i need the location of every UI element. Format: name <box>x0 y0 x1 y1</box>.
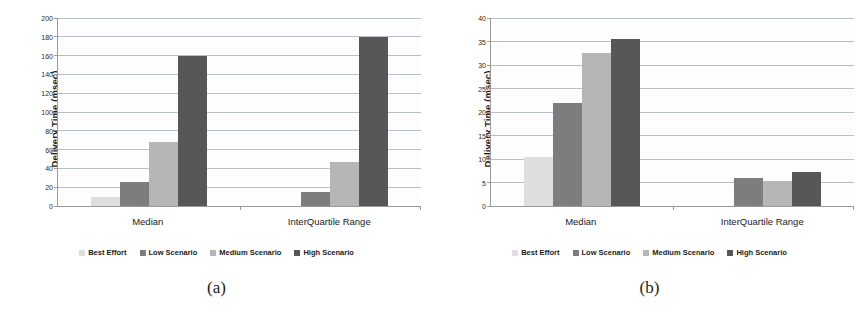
y-tick-mark <box>487 182 491 183</box>
y-tick-mark <box>487 206 491 207</box>
bar <box>763 181 792 206</box>
legend-swatch-icon <box>140 250 146 256</box>
bar <box>734 178 763 206</box>
bar <box>524 157 553 206</box>
y-tick-mark <box>54 168 58 169</box>
bar <box>301 192 330 206</box>
legend-label: Best Effort <box>88 248 126 257</box>
y-axis-ticks-a: 020406080100120140160180200 <box>29 0 53 206</box>
legend-label: High Scenario <box>736 248 786 257</box>
x-group-label: Median <box>57 216 239 227</box>
bar <box>792 172 821 206</box>
y-tick-label: 40 <box>478 15 486 22</box>
figure-row: Delivery Time (msec) 0204060801001201401… <box>0 0 867 324</box>
y-tick-mark <box>54 55 58 56</box>
legend-item: Low Scenario <box>140 248 198 257</box>
bar <box>553 103 582 206</box>
y-tick-mark <box>54 18 58 19</box>
x-tick-mark <box>673 206 674 210</box>
bar <box>359 37 388 206</box>
chart-b: Delivery Time (msec) 0510152025303540 Me… <box>433 0 866 238</box>
gridline <box>491 65 854 66</box>
legend-swatch-icon <box>573 250 579 256</box>
y-tick-mark <box>487 41 491 42</box>
legend-b: Best EffortLow ScenarioMedium ScenarioHi… <box>433 248 866 257</box>
y-tick-label: 35 <box>478 38 486 45</box>
y-tick-label: 180 <box>41 33 53 40</box>
legend-item: Best Effort <box>79 248 126 257</box>
y-tick-mark <box>54 112 58 113</box>
legend-item: High Scenario <box>727 248 786 257</box>
y-tick-label: 80 <box>45 127 53 134</box>
bar <box>582 53 611 206</box>
bar <box>178 56 207 206</box>
legend-item: Medium Scenario <box>210 248 281 257</box>
y-tick-label: 120 <box>41 90 53 97</box>
plot-area-b <box>490 18 854 207</box>
y-tick-mark <box>487 18 491 19</box>
legend-a: Best EffortLow ScenarioMedium ScenarioHi… <box>0 248 433 257</box>
legend-swatch-icon <box>727 250 733 256</box>
y-tick-mark <box>54 130 58 131</box>
caption-a: (a) <box>0 278 433 298</box>
legend-swatch-icon <box>294 250 300 256</box>
legend-label: Medium Scenario <box>219 248 281 257</box>
x-group-label: InterQuartile Range <box>239 216 421 227</box>
legend-swatch-icon <box>79 250 85 256</box>
legend-item: Best Effort <box>512 248 559 257</box>
gridline <box>491 41 854 42</box>
y-tick-mark <box>487 135 491 136</box>
legend-item: Low Scenario <box>573 248 631 257</box>
legend-label: Medium Scenario <box>652 248 714 257</box>
x-group-label: Median <box>490 216 672 227</box>
bar <box>330 162 359 206</box>
y-tick-label: 60 <box>45 146 53 153</box>
gridline <box>491 112 854 113</box>
y-tick-mark <box>54 93 58 94</box>
y-tick-label: 20 <box>45 184 53 191</box>
bar <box>611 39 640 206</box>
y-tick-mark <box>54 74 58 75</box>
y-tick-label: 30 <box>478 62 486 69</box>
legend-swatch-icon <box>512 250 518 256</box>
plot-area-a <box>57 18 421 207</box>
legend-label: Best Effort <box>521 248 559 257</box>
bar <box>120 182 149 206</box>
y-tick-label: 40 <box>45 165 53 172</box>
y-tick-label: 200 <box>41 15 53 22</box>
x-tick-mark <box>420 206 421 210</box>
legend-swatch-icon <box>210 250 216 256</box>
panel-b: Delivery Time (msec) 0510152025303540 Me… <box>433 0 866 324</box>
caption-b: (b) <box>433 278 866 298</box>
y-tick-mark <box>54 187 58 188</box>
legend-swatch-icon <box>643 250 649 256</box>
y-tick-mark <box>54 36 58 37</box>
legend-label: Low Scenario <box>582 248 631 257</box>
legend-label: Low Scenario <box>149 248 198 257</box>
y-tick-label: 20 <box>478 109 486 116</box>
legend-item: High Scenario <box>294 248 353 257</box>
y-tick-mark <box>487 159 491 160</box>
y-tick-label: 0 <box>482 203 486 210</box>
bar <box>91 197 120 206</box>
legend-label: High Scenario <box>303 248 353 257</box>
chart-a: Delivery Time (msec) 0204060801001201401… <box>0 0 433 238</box>
legend-item: Medium Scenario <box>643 248 714 257</box>
y-tick-mark <box>487 65 491 66</box>
y-tick-label: 160 <box>41 52 53 59</box>
y-tick-label: 5 <box>482 179 486 186</box>
gridline <box>491 135 854 136</box>
y-tick-label: 140 <box>41 71 53 78</box>
x-tick-mark <box>853 206 854 210</box>
panel-a: Delivery Time (msec) 0204060801001201401… <box>0 0 433 324</box>
y-tick-label: 0 <box>49 203 53 210</box>
y-tick-label: 25 <box>478 85 486 92</box>
y-tick-mark <box>487 88 491 89</box>
gridline <box>491 88 854 89</box>
y-tick-mark <box>487 112 491 113</box>
y-tick-mark <box>54 149 58 150</box>
y-tick-label: 100 <box>41 109 53 116</box>
x-group-label: InterQuartile Range <box>672 216 854 227</box>
gridline <box>491 18 854 19</box>
y-tick-label: 10 <box>478 156 486 163</box>
